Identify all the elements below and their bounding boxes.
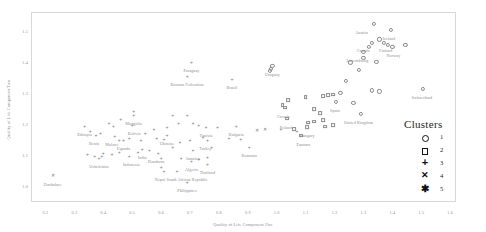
x-tick-label: 1.6 [447,210,453,215]
legend-entry-label: 5 [440,185,443,192]
legend-entry-label: 2 [440,146,443,153]
data-point-unlabeled: + [228,136,231,141]
data-point-unlabeled [321,118,325,122]
data-point: + [113,133,116,138]
x-tick-label: 0.2 [43,210,49,215]
data-point-label: Algeria [185,167,198,172]
data-point-unlabeled [331,93,335,97]
data-point-label: Zimbabwe [44,182,62,187]
data-point-unlabeled: + [177,120,180,125]
x-axis-title: Quality of Life Component One [213,222,272,227]
data-point [361,50,365,54]
y-tick-label: 1.1 [16,153,28,158]
data-point-unlabeled: + [280,127,283,132]
data-point-unlabeled: + [118,137,121,142]
data-point: + [191,147,194,152]
data-point-unlabeled: + [178,140,181,145]
data-point-unlabeled: + [171,112,174,117]
data-point-unlabeled [269,67,273,71]
data-point-unlabeled [321,94,325,98]
data-point: ✕ [51,173,55,178]
y-tick-label: 1.3 [16,90,28,95]
data-point-unlabeled [286,98,290,102]
x-tick-label: 0.3 [71,210,77,215]
data-point-unlabeled [304,95,308,99]
data-point-unlabeled: + [160,165,163,170]
y-axis-title: Quality of Life Component Two [6,75,11,145]
x-tick-label: 0.7 [187,210,193,215]
x-tick-label: 1.5 [418,210,424,215]
x-tick-label: 0.4 [100,210,106,215]
data-point-unlabeled [312,107,316,111]
data-point-unlabeled: + [137,149,140,154]
data-point-unlabeled: + [180,155,183,160]
data-point-unlabeled: + [119,116,122,121]
data-point-unlabeled [351,101,355,105]
data-point: + [95,133,98,138]
data-point-unlabeled: + [112,123,115,128]
data-point-unlabeled: + [186,113,189,118]
data-point-unlabeled: + [160,156,163,161]
data-point-unlabeled: + [118,150,121,155]
data-point-unlabeled [338,91,342,95]
data-point-unlabeled [312,120,316,124]
data-point: + [163,169,166,174]
data-point: + [131,122,134,127]
data-point [299,134,303,138]
plot-area: AustriaIcelandCanadaFinlandNorwayLuxembo… [31,12,456,202]
data-point-unlabeled [370,88,374,92]
data-point-label: Switzerland [411,95,432,100]
legend-entry[interactable]: ✱5 [418,182,482,195]
data-point-unlabeled [306,121,310,125]
x-tick-label: 1.4 [389,210,395,215]
legend-entry[interactable]: 2 [418,143,482,156]
y-tick-label: 1.5 [16,28,28,33]
legend-marker-plus-icon: + [418,157,432,168]
data-point: + [206,137,209,142]
data-point [285,117,289,121]
data-point-unlabeled: + [110,151,113,156]
data-point-unlabeled: + [206,154,209,159]
x-tick-label: 1.2 [332,210,338,215]
data-point-unlabeled [357,68,361,72]
x-tick-label: 1.3 [361,210,367,215]
data-point: + [206,161,209,166]
data-point-unlabeled [374,60,378,64]
data-point-unlabeled: + [152,127,155,132]
data-point-unlabeled: + [197,157,200,162]
data-point-unlabeled: + [197,122,200,127]
data-point-label: Uruguay [265,72,280,77]
data-point [305,125,309,129]
data-point-unlabeled: + [93,153,96,158]
data-point [358,112,362,116]
data-point: + [190,59,193,64]
data-point-unlabeled: + [216,124,219,129]
data-point: + [190,158,193,163]
data-point-unlabeled [326,93,330,97]
data-point-label: Benin [89,141,99,146]
data-point-unlabeled: + [100,153,103,158]
data-point-unlabeled [367,45,371,49]
data-point-unlabeled [348,60,352,64]
data-point [389,28,393,32]
data-point: + [128,153,131,158]
data-point-unlabeled: + [202,134,205,139]
data-point-unlabeled [318,111,322,115]
data-point-label: Austria [355,30,368,35]
legend-entry[interactable]: ✕4 [418,169,482,182]
data-point-unlabeled: + [86,151,89,156]
data-point-unlabeled: + [171,145,174,150]
data-point [390,45,394,49]
data-point-label: Brazil [227,85,238,90]
data-point: + [235,123,238,128]
data-point-unlabeled: + [210,144,213,149]
x-tick-label: 1.1 [303,210,309,215]
y-tick-label: 1.4 [16,59,28,64]
data-point [372,21,376,25]
data-point-unlabeled: + [89,128,92,133]
data-point: + [186,180,189,185]
x-tick-label: 1.0 [274,210,280,215]
data-point-label: Norway [386,53,400,58]
legend-entry[interactable]: +3 [418,156,482,169]
data-point-unlabeled: + [139,138,142,143]
